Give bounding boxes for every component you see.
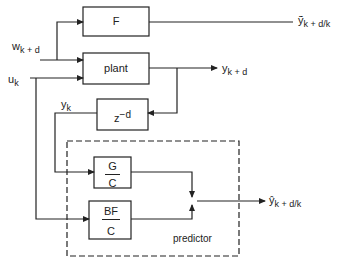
plant-output-label: yk + d xyxy=(222,63,247,77)
bf-to-sum-line xyxy=(131,205,192,219)
plant-block-label: plant xyxy=(83,63,149,74)
u-input-label: uk xyxy=(8,74,19,88)
f-output-label: ỹk + d/k xyxy=(298,15,330,29)
g-denominator: C xyxy=(105,175,120,189)
predictor-label: predictor xyxy=(173,234,212,244)
delay-block-label: z−d xyxy=(97,110,148,124)
bf-denominator: C xyxy=(102,220,120,237)
feedback-to-delay xyxy=(148,68,177,113)
g-numerator: G xyxy=(105,161,120,175)
g-over-c-label: G C xyxy=(105,161,120,189)
bf-numerator: BF xyxy=(102,206,120,220)
predictor-output-label: ŷk + d/k xyxy=(269,195,301,209)
delay-exponent: −d xyxy=(120,109,131,120)
yk-to-g-line xyxy=(55,113,97,172)
g-to-sum-line xyxy=(131,172,192,197)
bf-over-c-label: BF C xyxy=(102,206,120,237)
block-diagram xyxy=(0,0,342,270)
f-block-label: F xyxy=(83,16,149,27)
w-input-label: wk + d xyxy=(12,41,40,55)
w-branch-to-f xyxy=(57,22,83,60)
yk-label: yk xyxy=(61,99,71,113)
